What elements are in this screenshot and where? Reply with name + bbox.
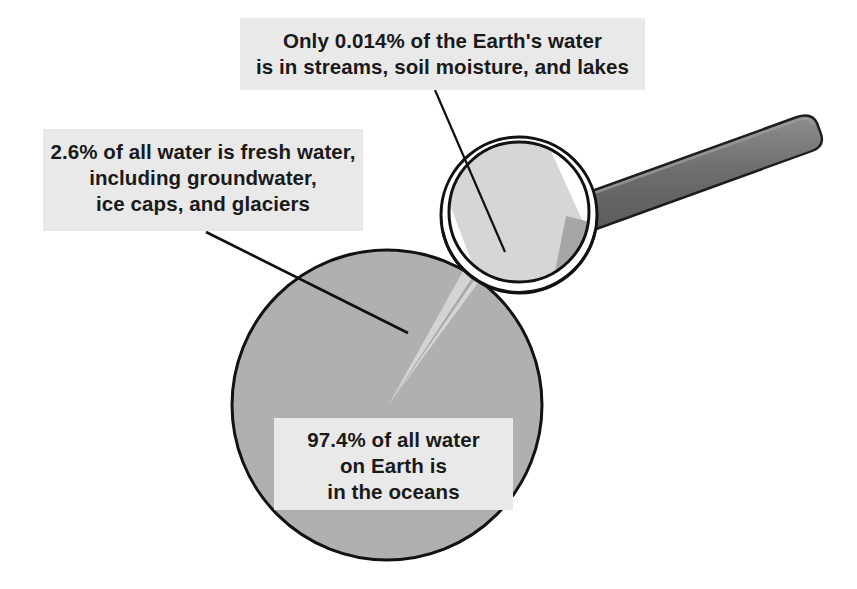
streams-callout-line-1: Only 0.014% of the Earth's water [240,28,645,54]
pie-slice-oceans [232,250,542,560]
fresh-water-callout-line-1: 2.6% of all water is fresh water, [43,139,363,165]
figure-canvas: Only 0.014% of the Earth's water is in s… [0,0,857,589]
oceans-callout-line-2: on Earth is [274,453,513,479]
streams-callout: Only 0.014% of the Earth's water is in s… [240,18,645,90]
pie-chart [232,246,542,560]
fresh-water-callout-line-3: ice caps, and glaciers [43,191,363,217]
oceans-callout-line-1: 97.4% of all water [274,427,513,453]
oceans-callout-line-3: in the oceans [274,479,513,505]
magnifier [436,115,822,300]
magnifier-handle [578,115,822,232]
fresh-water-callout-line-2: including groundwater, [43,165,363,191]
fresh-water-callout: 2.6% of all water is fresh water, includ… [43,129,363,231]
streams-callout-line-2: is in streams, soil moisture, and lakes [240,54,645,80]
oceans-callout: 97.4% of all water on Earth is in the oc… [274,418,513,510]
